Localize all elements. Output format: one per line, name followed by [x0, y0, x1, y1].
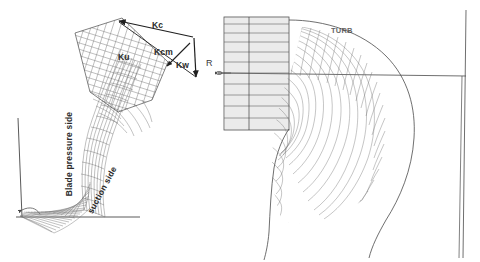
meridional-grid-view: [216, 10, 466, 260]
radius-label-R: R: [206, 58, 213, 68]
vector-label-Kcm: Kcm: [154, 47, 173, 57]
vector-label-Ku: Ku: [118, 52, 130, 62]
figure-canvas: Kc Kcm Ku Kw Blade pressure side suction…: [0, 0, 480, 262]
outlet-vertical-line: [459, 10, 466, 258]
blade-pressure-side-label: Blade pressure side: [64, 99, 74, 209]
vector-Kw: [194, 38, 196, 77]
blade-tip-quad-mesh: [56, 8, 190, 141]
vector-label-Kc: Kc: [152, 20, 163, 30]
vector-label-Kw: Kw: [176, 60, 189, 70]
region-annotation-label: TURB: [331, 26, 353, 35]
blade-surface-3d-view: [16, 8, 196, 233]
axis-vertical: [18, 118, 22, 217]
